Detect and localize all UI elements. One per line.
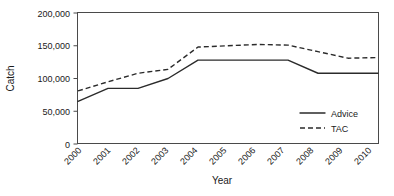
- series-line-tac: [78, 44, 378, 91]
- y-tick-label-50000: 50,000: [42, 107, 70, 117]
- x-tick-label-2006: 2006: [236, 145, 257, 166]
- catch-advice-tac-line-chart: 200,000 150,000 100,000 50,000 0 Catch 2…: [0, 0, 394, 196]
- chart-legend: Advice TAC: [300, 109, 358, 134]
- x-tick-label-2001: 2001: [91, 145, 112, 166]
- y-tick-label-150000: 150,000: [37, 41, 70, 51]
- series-line-advice: [78, 60, 378, 101]
- y-tick-label-200000: 200,000: [37, 9, 70, 19]
- y-axis-title: Catch: [5, 65, 16, 91]
- legend-label-advice: Advice: [331, 109, 358, 119]
- x-axis-title: Year: [212, 175, 233, 186]
- y-tick-label-0: 0: [65, 140, 70, 150]
- x-tick-label-2004: 2004: [178, 145, 199, 166]
- x-tick-label-2009: 2009: [323, 145, 344, 166]
- chart-figure: 200,000 150,000 100,000 50,000 0 Catch 2…: [0, 0, 394, 196]
- x-tick-label-2002: 2002: [120, 145, 141, 166]
- x-tick-label-2010: 2010: [352, 145, 373, 166]
- y-axis-ticks: [74, 13, 78, 144]
- y-tick-label-100000: 100,000: [37, 74, 70, 84]
- legend-label-tac: TAC: [331, 124, 349, 134]
- x-tick-label-2007: 2007: [265, 145, 286, 166]
- x-tick-label-2008: 2008: [294, 145, 315, 166]
- x-tick-label-2005: 2005: [207, 145, 228, 166]
- x-tick-label-2003: 2003: [149, 145, 170, 166]
